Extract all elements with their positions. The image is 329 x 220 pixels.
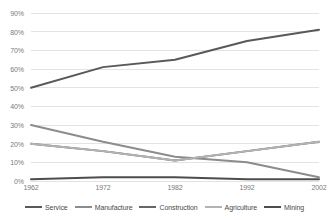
chart-legend: ServiceManufactureConstructionAgricultur… <box>0 200 329 214</box>
x-axis-tick-label: 1972 <box>95 184 110 191</box>
series-line-service <box>31 30 319 88</box>
legend-line-icon <box>205 206 222 208</box>
x-axis: 19621972198219922002 <box>31 184 319 196</box>
legend-item-label: Manufacture <box>95 204 133 211</box>
series-lines <box>31 13 319 181</box>
y-axis-tick-label: 70% <box>10 47 24 54</box>
y-axis-tick-label: 80% <box>10 28 24 35</box>
y-axis: 0%10%20%30%40%50%60%70%80%90% <box>0 13 28 181</box>
legend-item-mining[interactable]: Mining <box>264 204 304 211</box>
plot-area <box>31 13 319 181</box>
legend-line-icon <box>139 206 156 208</box>
y-axis-tick-label: 90% <box>10 10 24 17</box>
x-axis-tick-label: 1982 <box>167 184 182 191</box>
legend-line-icon <box>264 206 281 208</box>
x-axis-tick-label: 1992 <box>239 184 254 191</box>
y-axis-tick-label: 60% <box>10 66 24 73</box>
legend-item-label: Service <box>45 204 68 211</box>
x-axis-tick-label: 1962 <box>23 184 38 191</box>
line-chart: 0%10%20%30%40%50%60%70%80%90% 1962197219… <box>0 0 329 220</box>
legend-item-label: Mining <box>284 204 304 211</box>
y-axis-tick-label: 40% <box>10 103 24 110</box>
y-axis-tick-label: 20% <box>10 140 24 147</box>
y-axis-tick-label: 30% <box>10 122 24 129</box>
legend-item-label: Construction <box>159 204 197 211</box>
legend-item-manufacture[interactable]: Manufacture <box>75 204 133 211</box>
legend-item-label: Agriculture <box>225 204 257 211</box>
y-axis-tick-label: 10% <box>10 159 24 166</box>
series-line-mining <box>31 177 319 179</box>
series-line-manufacture <box>31 125 319 177</box>
legend-line-icon <box>75 206 92 208</box>
legend-item-service[interactable]: Service <box>25 204 68 211</box>
y-axis-tick-label: 50% <box>10 84 24 91</box>
x-axis-tick-label: 2002 <box>311 184 326 191</box>
legend-line-icon <box>25 206 42 208</box>
legend-item-construction[interactable]: Construction <box>139 204 197 211</box>
legend-item-agriculture[interactable]: Agriculture <box>205 204 257 211</box>
